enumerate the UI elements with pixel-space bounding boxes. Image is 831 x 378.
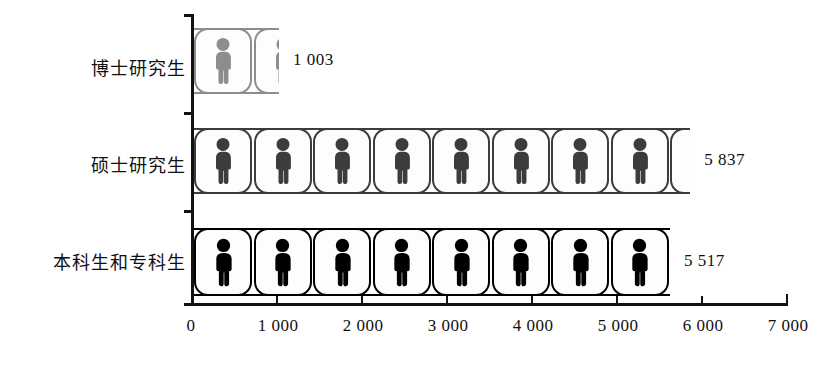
person-icon <box>622 238 657 287</box>
person-icon <box>444 238 479 287</box>
pictogram-icon-cell <box>551 228 609 296</box>
pictogram-icon-cell <box>254 228 312 296</box>
person-icon <box>563 238 598 287</box>
person-icon <box>265 238 300 287</box>
pictogram-icon-cell <box>194 228 252 296</box>
pictogram-chart: 0 1 000 2 000 3 000 4 000 5 000 6 000 7 … <box>0 0 831 378</box>
pictogram-icon-cell <box>611 228 669 296</box>
pictogram-icon-cell <box>373 228 431 296</box>
pictogram-icon-cell <box>313 228 371 296</box>
value-label-doctoral: 1 003 <box>293 50 334 70</box>
pictogram-bar-undergraduate <box>0 0 831 378</box>
value-label-undergraduate: 5 517 <box>684 251 725 271</box>
person-icon <box>384 238 419 287</box>
pictogram-icon-cell <box>492 228 550 296</box>
person-icon <box>206 238 241 287</box>
pictogram-icon-cell <box>432 228 490 296</box>
person-icon <box>503 238 538 287</box>
person-icon <box>325 238 360 287</box>
value-label-masters: 5 837 <box>704 150 745 170</box>
